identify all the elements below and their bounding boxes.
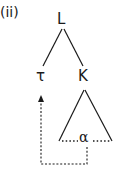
node-left-child: τ bbox=[36, 69, 45, 84]
edge-L-K bbox=[64, 29, 83, 66]
example-number-label: (ii) bbox=[0, 5, 19, 19]
edge-L-tau bbox=[43, 29, 62, 66]
syntax-tree-diagram: (ii) L τ K α bbox=[0, 0, 119, 173]
node-moved-element: α bbox=[79, 130, 88, 144]
node-root: L bbox=[57, 12, 65, 27]
triangle-right-side bbox=[85, 90, 112, 141]
node-right-child: K bbox=[78, 69, 88, 84]
arrowhead-up-icon bbox=[38, 95, 44, 102]
